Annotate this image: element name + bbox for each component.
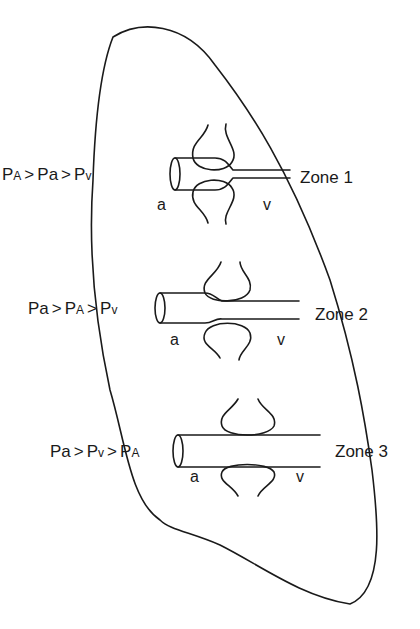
alveolus-lower (193, 180, 234, 224)
zone-1-artery-label: a (157, 196, 166, 213)
zone-1-vessel (170, 124, 290, 224)
alveolus-upper (221, 399, 274, 435)
zone-2-condition: Pa>PA>Pv (28, 299, 117, 318)
artery-opening (155, 293, 165, 323)
zone-3-label: Zone 3 (335, 442, 388, 461)
artery-opening (173, 435, 183, 467)
zone-2-artery-label: a (170, 331, 179, 348)
lung-zones-diagram: PA>Pa>Pv a v Zone 1 Pa>PA>Pv a v Zone 2 … (0, 0, 420, 629)
artery-opening (170, 158, 180, 190)
alveolus-lower (221, 465, 274, 497)
zone-1-vein-label: v (263, 196, 271, 213)
zone-1-condition: PA>Pa>Pv (2, 165, 91, 184)
zone-3-artery-label: a (190, 468, 199, 485)
zone-3-vein-label: v (296, 468, 304, 485)
zone-2-vein-label: v (277, 331, 285, 348)
zone-2-label: Zone 2 (315, 305, 368, 324)
alveolus-lower (204, 323, 251, 360)
zone-1-label: Zone 1 (300, 168, 353, 187)
zone-3-condition: Pa>Pv>PA (50, 442, 139, 461)
